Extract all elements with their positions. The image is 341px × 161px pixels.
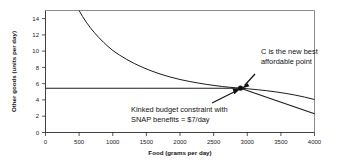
y-tick-label-6: 6: [36, 81, 40, 87]
x-tick-label-500: 500: [74, 139, 85, 145]
budget-constraint-annotation-line-2: SNAP benefits = $7/day: [131, 115, 210, 124]
point-c-annotation-line-1: C is the new best: [261, 47, 318, 56]
economics-budget-constraint-chart: 0 2 4 6 8 10 12 14 0 500 1000 1500 2000 …: [0, 0, 341, 161]
x-tick-label-3000: 3000: [241, 139, 255, 145]
x-tick-label-3500: 3500: [274, 139, 288, 145]
x-tick-label-2500: 2500: [207, 139, 221, 145]
point-c-annotation-line-2: affordable point: [261, 57, 312, 66]
x-axis-ticks: 0 500 1000 1500 2000 2500 3000 3500 4000: [44, 133, 322, 145]
x-tick-label-1500: 1500: [140, 139, 154, 145]
x-tick-label-0: 0: [44, 139, 48, 145]
x-tick-label-2000: 2000: [173, 139, 187, 145]
y-tick-label-10: 10: [32, 48, 39, 54]
y-axis-ticks: 0 2 4 6 8 10 12 14: [32, 16, 45, 136]
chart-figure: 0 2 4 6 8 10 12 14 0 500 1000 1500 2000 …: [0, 0, 341, 161]
y-tick-label-14: 14: [32, 16, 39, 22]
y-tick-label-8: 8: [36, 65, 40, 71]
y-tick-label-12: 12: [32, 32, 39, 38]
y-tick-label-0: 0: [36, 130, 40, 136]
x-tick-label-1000: 1000: [106, 139, 120, 145]
budget-constraint-annotation-line-1: Kinked budget constraint with: [131, 105, 228, 114]
y-tick-label-4: 4: [36, 97, 40, 103]
x-axis-title: Food (grams per day): [148, 149, 211, 156]
y-axis-title: Other goods (units per day): [10, 31, 17, 112]
y-tick-label-2: 2: [36, 113, 40, 119]
x-tick-label-4000: 4000: [308, 139, 322, 145]
